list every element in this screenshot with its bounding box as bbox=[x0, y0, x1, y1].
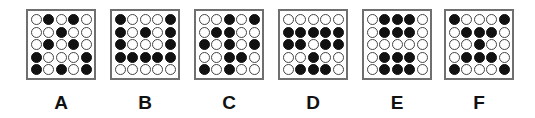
filled-circle-icon bbox=[449, 14, 460, 25]
option-label: C bbox=[194, 92, 264, 114]
filled-circle-icon bbox=[236, 52, 247, 63]
empty-circle-icon bbox=[31, 27, 42, 38]
option-d[interactable]: D bbox=[278, 9, 348, 80]
empty-circle-icon bbox=[367, 14, 378, 25]
filled-circle-icon bbox=[224, 39, 235, 50]
option-e[interactable]: E bbox=[362, 9, 432, 80]
filled-circle-icon bbox=[43, 14, 54, 25]
filled-circle-icon bbox=[392, 52, 403, 63]
empty-circle-icon bbox=[417, 39, 428, 50]
option-label: B bbox=[110, 92, 180, 114]
filled-circle-icon bbox=[224, 14, 235, 25]
option-a[interactable]: A bbox=[26, 9, 96, 80]
empty-circle-icon bbox=[333, 14, 344, 25]
filled-circle-icon bbox=[449, 64, 460, 75]
filled-circle-icon bbox=[474, 52, 485, 63]
filled-circle-icon bbox=[499, 14, 510, 25]
filled-circle-icon bbox=[115, 39, 126, 50]
empty-circle-icon bbox=[140, 39, 151, 50]
empty-circle-icon bbox=[461, 64, 472, 75]
empty-circle-icon bbox=[236, 39, 247, 50]
filled-circle-icon bbox=[249, 14, 260, 25]
filled-circle-icon bbox=[283, 39, 294, 50]
filled-circle-icon bbox=[486, 27, 497, 38]
empty-circle-icon bbox=[152, 64, 163, 75]
empty-circle-icon bbox=[449, 27, 460, 38]
filled-circle-icon bbox=[404, 64, 415, 75]
empty-circle-icon bbox=[127, 27, 138, 38]
empty-circle-icon bbox=[283, 52, 294, 63]
filled-circle-icon bbox=[308, 27, 319, 38]
dot-grid bbox=[26, 9, 96, 80]
filled-circle-icon bbox=[379, 64, 390, 75]
empty-circle-icon bbox=[115, 64, 126, 75]
dot-grid bbox=[194, 9, 264, 80]
filled-circle-icon bbox=[404, 52, 415, 63]
option-label: F bbox=[444, 92, 514, 114]
empty-circle-icon bbox=[474, 64, 485, 75]
empty-circle-icon bbox=[379, 39, 390, 50]
filled-circle-icon bbox=[461, 27, 472, 38]
filled-circle-icon bbox=[499, 64, 510, 75]
filled-circle-icon bbox=[165, 39, 176, 50]
filled-circle-icon bbox=[474, 27, 485, 38]
filled-circle-icon bbox=[224, 64, 235, 75]
empty-circle-icon bbox=[152, 39, 163, 50]
filled-circle-icon bbox=[283, 27, 294, 38]
empty-circle-icon bbox=[367, 52, 378, 63]
empty-circle-icon bbox=[308, 39, 319, 50]
empty-circle-icon bbox=[56, 52, 67, 63]
empty-circle-icon bbox=[367, 39, 378, 50]
filled-circle-icon bbox=[333, 27, 344, 38]
option-b[interactable]: B bbox=[110, 9, 180, 80]
filled-circle-icon bbox=[152, 52, 163, 63]
empty-circle-icon bbox=[474, 14, 485, 25]
filled-circle-icon bbox=[140, 52, 151, 63]
filled-circle-icon bbox=[224, 52, 235, 63]
option-f[interactable]: F bbox=[444, 9, 514, 80]
filled-circle-icon bbox=[295, 64, 306, 75]
filled-circle-icon bbox=[308, 64, 319, 75]
empty-circle-icon bbox=[499, 39, 510, 50]
empty-circle-icon bbox=[81, 27, 92, 38]
empty-circle-icon bbox=[333, 64, 344, 75]
empty-circle-icon bbox=[499, 27, 510, 38]
empty-circle-icon bbox=[211, 64, 222, 75]
empty-circle-icon bbox=[449, 39, 460, 50]
dot-grid bbox=[278, 9, 348, 80]
empty-circle-icon bbox=[486, 64, 497, 75]
option-c[interactable]: C bbox=[194, 9, 264, 80]
filled-circle-icon bbox=[127, 52, 138, 63]
dot-grid bbox=[362, 9, 432, 80]
empty-circle-icon bbox=[295, 14, 306, 25]
empty-circle-icon bbox=[320, 52, 331, 63]
empty-circle-icon bbox=[140, 14, 151, 25]
empty-circle-icon bbox=[417, 52, 428, 63]
option-label: D bbox=[278, 92, 348, 114]
filled-circle-icon bbox=[392, 27, 403, 38]
filled-circle-icon bbox=[56, 64, 67, 75]
filled-circle-icon bbox=[81, 64, 92, 75]
empty-circle-icon bbox=[417, 27, 428, 38]
empty-circle-icon bbox=[249, 64, 260, 75]
empty-circle-icon bbox=[43, 64, 54, 75]
empty-circle-icon bbox=[211, 39, 222, 50]
empty-circle-icon bbox=[449, 52, 460, 63]
filled-circle-icon bbox=[379, 14, 390, 25]
filled-circle-icon bbox=[165, 27, 176, 38]
empty-circle-icon bbox=[68, 52, 79, 63]
empty-circle-icon bbox=[236, 27, 247, 38]
empty-circle-icon bbox=[392, 39, 403, 50]
filled-circle-icon bbox=[31, 64, 42, 75]
empty-circle-icon bbox=[404, 39, 415, 50]
empty-circle-icon bbox=[367, 64, 378, 75]
empty-circle-icon bbox=[367, 27, 378, 38]
empty-circle-icon bbox=[199, 14, 210, 25]
empty-circle-icon bbox=[283, 14, 294, 25]
empty-circle-icon bbox=[461, 14, 472, 25]
empty-circle-icon bbox=[199, 52, 210, 63]
filled-circle-icon bbox=[392, 64, 403, 75]
filled-circle-icon bbox=[56, 27, 67, 38]
filled-circle-icon bbox=[115, 27, 126, 38]
empty-circle-icon bbox=[152, 14, 163, 25]
